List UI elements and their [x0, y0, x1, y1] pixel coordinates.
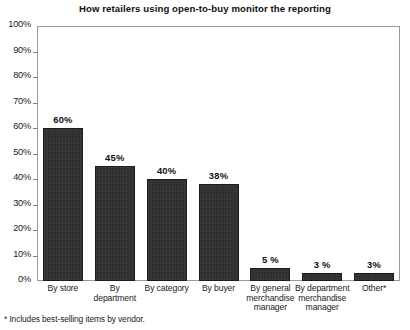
- x-axis-tick-label: By departmentmerchandisemanager: [293, 284, 351, 313]
- x-axis-label-line: By category: [138, 284, 196, 294]
- y-axis-tick-label: 60%: [13, 121, 31, 131]
- chart-footnote: * Includes best-selling items by vendor.: [4, 314, 145, 324]
- y-axis-tick-label: 20%: [13, 223, 31, 233]
- x-axis-tick-label: By generalmerchandisemanager: [241, 284, 299, 313]
- y-axis-tick-label: 40%: [13, 172, 31, 182]
- x-axis-label-line: Other*: [345, 284, 403, 294]
- bar-group: 3 %: [302, 26, 342, 281]
- x-axis-tick-label: By category: [138, 284, 196, 294]
- bar-group: 38%: [199, 26, 239, 281]
- bar-group: 3%: [354, 26, 394, 281]
- bar-group: 45%: [95, 26, 135, 281]
- bar-group: 60%: [43, 26, 83, 281]
- y-axis-tick-label: 90%: [13, 45, 31, 55]
- y-axis: 100%90%80%70%60%50%40%30%20%10%0%: [0, 26, 37, 281]
- x-axis-label-line: department: [86, 294, 144, 304]
- y-axis-tick-label: 80%: [13, 70, 31, 80]
- x-axis-label-line: By store: [34, 284, 92, 294]
- bar: [302, 273, 342, 281]
- x-axis-label-line: manager: [293, 303, 351, 313]
- bar-series: 60%45%40%38%5 %3 %3%: [37, 26, 400, 281]
- x-axis-tick-label: Bydepartment: [86, 284, 144, 303]
- x-axis-label-line: By buyer: [190, 284, 248, 294]
- x-axis-tick-label: By buyer: [190, 284, 248, 294]
- bar-value-label: 60%: [53, 114, 72, 125]
- y-axis-tick-label: 100%: [8, 19, 31, 29]
- bar: [147, 179, 187, 281]
- y-axis-tick-label: 50%: [13, 147, 31, 157]
- bar: [354, 273, 394, 281]
- bar: [250, 268, 290, 281]
- bar-value-label: 40%: [157, 165, 176, 176]
- bar: [43, 128, 83, 281]
- bar: [199, 184, 239, 281]
- page-title: How retailers using open-to-buy monitor …: [0, 3, 410, 14]
- bar-value-label: 3 %: [314, 259, 331, 270]
- x-axis-tick-label: Other*: [345, 284, 403, 294]
- x-axis-label-line: manager: [241, 303, 299, 313]
- bar-value-label: 3%: [367, 259, 381, 270]
- y-axis-tick-label: 10%: [13, 249, 31, 259]
- bar-value-label: 45%: [105, 152, 124, 163]
- bar: [95, 166, 135, 281]
- y-axis-tick-label: 70%: [13, 96, 31, 106]
- y-axis-tick-label: 0%: [18, 274, 31, 284]
- y-axis-tick-label: 30%: [13, 198, 31, 208]
- bar-value-label: 5 %: [262, 254, 279, 265]
- bar-value-label: 38%: [209, 170, 228, 181]
- bar-group: 5 %: [250, 26, 290, 281]
- x-axis-tick-label: By store: [34, 284, 92, 294]
- bar-group: 40%: [147, 26, 187, 281]
